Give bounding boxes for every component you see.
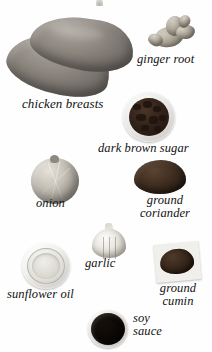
ingredients-illustration-board: chicken breasts ginger root dark brown s… [0, 0, 212, 352]
ingredient-label-chicken-breasts: chicken breasts [22, 97, 104, 110]
ingredient-image-ginger-root [146, 13, 196, 53]
garlic-seam [115, 237, 116, 259]
ingredient-image-ground-coriander [134, 160, 186, 194]
ingredient-label-sunflower-oil: sunflower oil [7, 288, 74, 301]
ingredient-label-garlic: garlic [85, 257, 115, 270]
ingredient-label-ginger-root: ginger root [137, 53, 194, 66]
ingredient-image-garlic [92, 224, 126, 258]
oil-surface [32, 253, 60, 279]
ingredient-image-dark-brown-sugar [123, 92, 175, 142]
ingredient-label-dark-brown-sugar: dark brown sugar [98, 142, 189, 155]
ingredient-image-sunflower-oil [22, 243, 70, 289]
ingredient-label-ground-coriander: ground coriander [124, 194, 206, 220]
onion-skin-line [41, 168, 70, 195]
soy-sauce-liquid [91, 313, 125, 345]
sugar-fill [129, 98, 169, 136]
ingredient-image-soy-sauce [88, 310, 128, 348]
ingredient-image-ground-cumin [155, 243, 200, 281]
cropped-top-artifact [96, 0, 103, 6]
ingredient-label-soy-sauce: soy sauce [133, 312, 162, 338]
ingredient-image-chicken-breasts [6, 14, 130, 98]
ingredient-label-ground-cumin: ground cumin [147, 282, 209, 308]
ingredient-label-onion: onion [36, 197, 65, 210]
onion-tip [50, 155, 59, 163]
garlic-bulb [92, 229, 126, 258]
